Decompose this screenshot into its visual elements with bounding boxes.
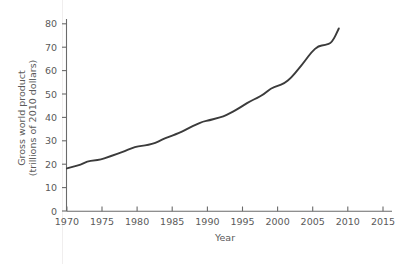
x-tick-label-2015: 2015 (371, 216, 395, 227)
y-tick-marks (62, 24, 67, 211)
y-tick-label-40: 40 (45, 112, 57, 123)
x-axis-title: Year (214, 232, 235, 243)
y-tick-label-70: 70 (45, 42, 57, 53)
x-tick-marks (67, 207, 383, 212)
x-tick-label-1995: 1995 (230, 216, 254, 227)
x-tick-label-2005: 2005 (301, 216, 325, 227)
x-tick-label-1980: 1980 (125, 216, 149, 227)
x-tick-label-1975: 1975 (90, 216, 114, 227)
y-axis-title-line2: (trillions of 2010 dollars) (27, 60, 38, 177)
x-tick-label-1985: 1985 (160, 216, 184, 227)
x-tick-label-1970: 1970 (55, 216, 79, 227)
line-chart-svg: Gross world product (trillions of 2010 d… (0, 0, 411, 264)
y-tick-label-50: 50 (45, 89, 57, 100)
y-tick-label-60: 60 (45, 65, 57, 76)
series-line-gross-world-product (67, 28, 339, 168)
y-tick-label-10: 10 (45, 182, 57, 193)
y-tick-label-30: 30 (45, 135, 57, 146)
y-tick-label-20: 20 (45, 159, 57, 170)
x-tick-label-2000: 2000 (266, 216, 290, 227)
x-tick-label-2010: 2010 (336, 216, 360, 227)
y-tick-label-80: 80 (45, 18, 57, 29)
chart-figure: Gross world product (trillions of 2010 d… (0, 0, 411, 264)
y-axis-title-line1: Gross world product (16, 70, 27, 166)
x-tick-label-1990: 1990 (195, 216, 219, 227)
